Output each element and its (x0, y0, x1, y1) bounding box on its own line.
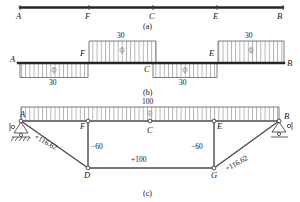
panel-caption-a: (a) (143, 23, 152, 31)
node-label-a-a: A (16, 12, 21, 21)
node-label-c-e: E (217, 122, 222, 131)
load-block-top (21, 107, 279, 121)
panel-caption-b: (b) (143, 89, 152, 97)
node-label-a-f: F (85, 12, 90, 21)
node-label-b-f: F (80, 49, 85, 58)
node-label-c-g: G (211, 171, 217, 180)
node-label-c-d: D (84, 171, 90, 180)
load-block-ce (153, 64, 217, 78)
load-value-eb: 30 (245, 32, 253, 40)
load-value-af: 30 (49, 79, 57, 87)
node-label-a-c: C (149, 12, 155, 21)
member-force-eg: −60 (191, 143, 203, 151)
node-label-b-a: A (10, 55, 15, 64)
load-value-fc: 30 (117, 32, 125, 40)
node-label-b-b: B (287, 59, 292, 68)
panel-a-geometry (20, 5, 283, 10)
node-label-c-f: F (80, 122, 85, 131)
node-label-c-c: C (147, 126, 153, 135)
load-block-af (20, 64, 88, 78)
node-label-a-b: B (277, 12, 282, 21)
figure-canvas: A F C E B (a) A F C E B 30 30 30 30 (b) … (0, 0, 300, 202)
panel-caption-c: (c) (143, 190, 152, 198)
node-label-b-e: E (209, 49, 214, 58)
member-force-fd: −60 (91, 143, 103, 151)
load-block-eb (218, 41, 284, 62)
node-label-a-e: E (213, 12, 218, 21)
load-value-ce: 30 (179, 79, 187, 87)
node-label-b-c: C (144, 65, 150, 74)
member-force-dg: +100 (131, 156, 146, 164)
node-label-c-b: B (284, 112, 289, 121)
node-label-c-a: A (20, 110, 25, 119)
load-block-fc (89, 41, 156, 62)
load-value-top: 100 (142, 98, 153, 106)
panel-b-geometry (18, 41, 284, 78)
